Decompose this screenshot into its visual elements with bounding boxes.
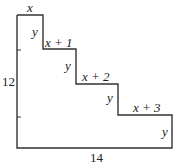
label-x-plus-3: x + 3 bbox=[132, 100, 161, 115]
label-y-1: y bbox=[30, 24, 38, 39]
label-x-plus-1: x + 1 bbox=[44, 35, 73, 50]
staircase-diagram: x y x + 1 y x + 2 y x + 3 y 12 14 bbox=[0, 0, 178, 168]
label-bottom-14: 14 bbox=[90, 150, 104, 165]
label-y-4: y bbox=[160, 124, 168, 139]
label-x-plus-2: x + 2 bbox=[81, 69, 110, 84]
label-top-x: x bbox=[26, 0, 33, 15]
label-y-3: y bbox=[105, 90, 113, 105]
label-left-12: 12 bbox=[2, 74, 15, 89]
label-y-2: y bbox=[63, 58, 71, 73]
